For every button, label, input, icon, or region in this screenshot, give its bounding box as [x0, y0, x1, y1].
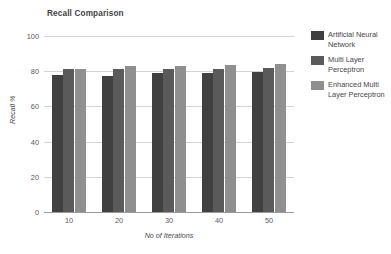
bar[interactable]: [263, 68, 274, 212]
chart-legend: Artificial Neural NetworkMulti Layer Per…: [311, 30, 389, 106]
chart-figure: Recall Comparison Recall % 020406080100 …: [0, 0, 391, 254]
legend-swatch: [311, 81, 324, 90]
x-axis-tick-label: 50: [265, 216, 273, 225]
legend-item[interactable]: Artificial Neural Network: [311, 30, 389, 49]
x-axis-line: [44, 212, 294, 213]
chart-title: Recall Comparison: [47, 9, 124, 18]
legend-label: Multi Layer Perceptron: [328, 55, 389, 74]
bar[interactable]: [213, 69, 224, 212]
bar[interactable]: [225, 65, 236, 212]
bar-group: [52, 36, 86, 212]
y-axis-tick-label: 60: [31, 102, 39, 111]
legend-label: Enhanced Multi Layer Perceptron: [328, 80, 389, 99]
bar[interactable]: [52, 75, 63, 212]
bar[interactable]: [63, 69, 74, 212]
legend-swatch: [311, 56, 324, 65]
y-axis-tick-label: 20: [31, 172, 39, 181]
x-axis-tick-label: 20: [115, 216, 123, 225]
legend-item[interactable]: Multi Layer Perceptron: [311, 55, 389, 74]
legend-label: Artificial Neural Network: [328, 30, 389, 49]
y-axis-title: Recall %: [8, 96, 17, 124]
x-axis-title: No of Iterations: [44, 231, 294, 240]
y-axis-tick-label: 80: [31, 67, 39, 76]
bar[interactable]: [175, 66, 186, 212]
y-axis-tick-label: 40: [31, 137, 39, 146]
legend-swatch: [311, 31, 324, 40]
plot-area: 020406080100: [44, 36, 294, 212]
bar-group: [252, 36, 286, 212]
bar-group: [152, 36, 186, 212]
bar[interactable]: [113, 69, 124, 212]
x-axis-tick-label: 30: [165, 216, 173, 225]
bar[interactable]: [75, 69, 86, 212]
bar-group: [202, 36, 236, 212]
bar[interactable]: [152, 73, 163, 212]
bar-group: [102, 36, 136, 212]
x-axis-tick-label: 40: [215, 216, 223, 225]
bar[interactable]: [252, 72, 263, 212]
y-axis-tick-label: 100: [27, 32, 39, 41]
y-axis-tick-label: 0: [35, 208, 39, 217]
x-axis-tick-label: 10: [65, 216, 73, 225]
legend-item[interactable]: Enhanced Multi Layer Perceptron: [311, 80, 389, 99]
bar[interactable]: [125, 66, 136, 212]
bar[interactable]: [163, 69, 174, 212]
bar[interactable]: [102, 76, 113, 212]
bar[interactable]: [202, 73, 213, 212]
bar[interactable]: [275, 64, 286, 212]
